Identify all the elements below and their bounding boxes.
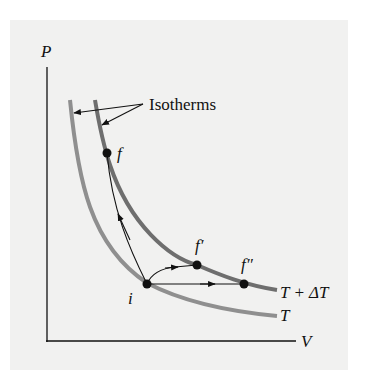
path-i-to-f-prime-arrow: [165, 267, 178, 268]
path-i-to-f-arrow: [118, 214, 130, 240]
p-axis-label: P: [40, 42, 51, 61]
point-f-prime-label: f′: [195, 236, 204, 255]
curve-t-plus-dt-label: T + ΔT: [280, 283, 330, 302]
isotherms-label: Isotherms: [149, 95, 216, 114]
point-f-double-prime: [240, 280, 249, 289]
point-f-double-prime-label: f″: [241, 255, 254, 274]
curve-t-label: T: [280, 306, 291, 325]
callout-arrow-t: [74, 104, 143, 113]
pv-diagram: P V Isotherms f f′ f″ i T + ΔT T: [0, 0, 366, 379]
point-f: [103, 149, 112, 158]
point-f-label: f: [117, 144, 124, 163]
point-i: [143, 280, 152, 289]
v-axis-label: V: [301, 332, 314, 351]
point-i-label: i: [128, 289, 133, 308]
point-f-prime: [193, 261, 202, 270]
